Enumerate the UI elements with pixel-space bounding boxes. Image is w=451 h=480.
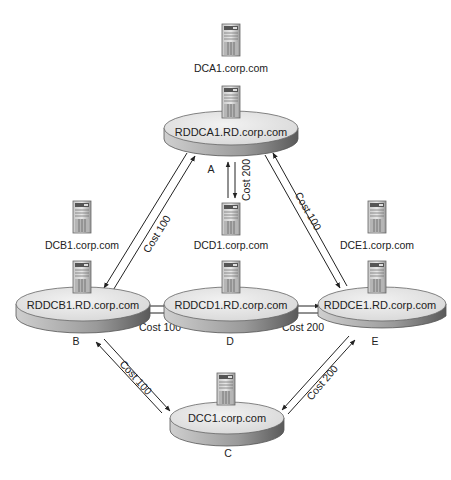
server-icon [217,373,235,405]
site-d: DCD1.corp.com RDDCD1.RD.corp.com D [164,203,298,347]
link-a-b [104,153,195,292]
server-icon [222,261,240,293]
server-icon [222,24,240,56]
dc-label-b: DCB1.corp.com [45,239,119,251]
site-a: DCA1.corp.com RDDCA1.RD.corp.com A [164,24,298,175]
site-letter-d: D [226,335,234,347]
site-c: DCC1.corp.com C [170,373,284,459]
server-icon [368,201,386,233]
site-link-diagram: Cost 100 Cost 200 Cost 100 Cost 100 Cost… [0,0,451,480]
dc-label-d: DCD1.corp.com [194,239,269,251]
site-letter-c: C [224,447,232,459]
link-a-d [228,162,235,198]
cost-label-e-c: Cost 200 [304,362,340,402]
server-icon [222,86,240,118]
link-a-e [265,153,347,288]
site-letter-e: E [371,335,378,347]
cost-label-b-c: Cost 100 [117,358,154,397]
link-e-c [282,336,355,414]
server-icon [368,261,386,293]
site-b: DCB1.corp.com RDDCB1.RD.corp.com B [16,201,150,347]
site-name-e: RDDCE1.RD.corp.com [324,299,436,311]
dc-label-e: DCE1.corp.com [340,239,414,251]
site-name-d: RDDCD1.RD.corp.com [174,299,287,311]
site-letter-b: B [72,335,79,347]
server-icon [73,261,91,293]
server-icon [222,203,240,235]
site-e: DCE1.corp.com RDDCE1.RD.corp.com E [318,201,446,347]
cost-label-a-d: Cost 200 [240,159,252,201]
cost-label-a-e: Cost 100 [293,190,324,233]
site-name-b: RDDCB1.RD.corp.com [27,299,139,311]
site-name-c: DCC1.corp.com [188,412,266,424]
site-letter-a: A [207,163,214,175]
site-name-a: RDDCA1.RD.corp.com [175,126,287,138]
dc-label-a: DCA1.corp.com [194,62,268,74]
server-icon [73,201,91,233]
